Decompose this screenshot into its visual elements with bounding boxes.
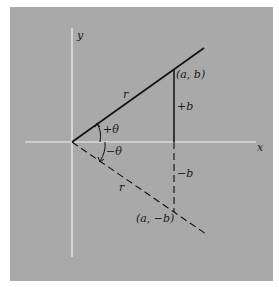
radius-label-lower: r — [119, 181, 125, 194]
side-label-plus-b: +b — [177, 100, 193, 113]
x-axis-label: x — [257, 141, 264, 154]
conjugate-angle-diagram: y x r +θ (a, b) +b r −θ (a, −b) −b — [0, 0, 279, 287]
point-label-a-b: (a, b) — [176, 68, 205, 81]
radius-label-upper: r — [123, 88, 129, 101]
y-axis-label: y — [76, 29, 84, 42]
diagram-panel — [10, 7, 273, 281]
angle-label-positive: +θ — [103, 123, 119, 136]
angle-label-negative: −θ — [106, 145, 122, 158]
point-label-a-minus-b: (a, −b) — [136, 212, 174, 225]
side-label-minus-b: −b — [177, 167, 193, 180]
